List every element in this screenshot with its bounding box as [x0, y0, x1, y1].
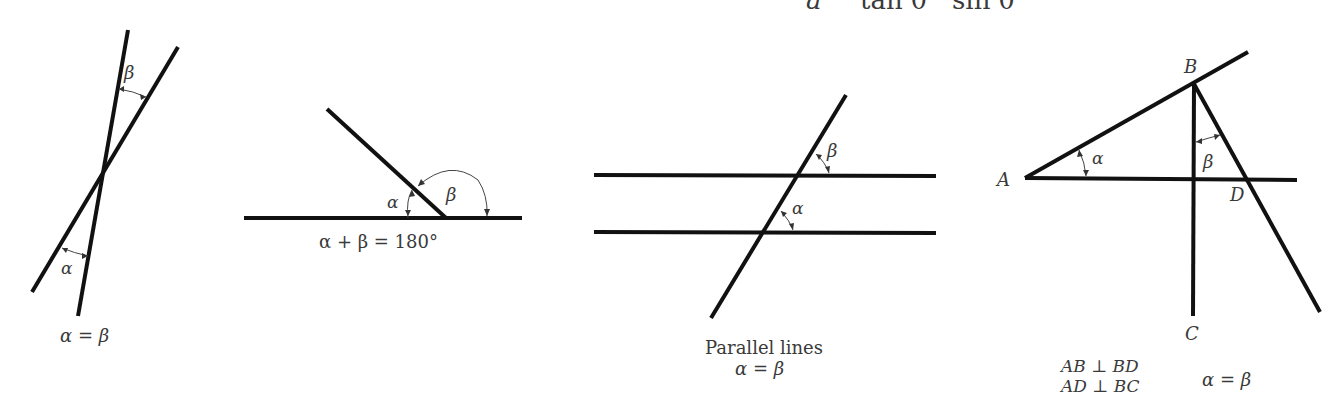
point-B: B [1183, 56, 1197, 77]
arrowhead [1083, 170, 1089, 176]
point-D: D [1229, 184, 1245, 205]
line-BC [1193, 84, 1194, 316]
arrowhead [825, 166, 830, 173]
label-alpha: α [61, 258, 73, 278]
line-AB [1025, 52, 1248, 178]
caption-equal: α = β [735, 358, 784, 379]
point-C: C [1185, 323, 1199, 344]
figure-parallel-lines: β α Parallel lines α = β [594, 95, 936, 379]
figure-intersecting-lines: β α α = β [32, 30, 178, 346]
label-beta: β [123, 62, 134, 83]
figure-supplementary-angles: α β α + β = 180° [244, 109, 522, 252]
caption-perp-2: AD ⊥ BC [1059, 376, 1140, 396]
arrowhead [405, 210, 411, 216]
formula-fragment: a tan θ sin θ [806, 0, 1014, 15]
formula-tan: tan θ [860, 0, 927, 15]
formula-a: a [806, 0, 822, 15]
geometry-figure: a tan θ sin θ β α α = β α β α + β = 180° [0, 0, 1328, 416]
figure-perpendicular-lines: A B C D α β AB ⊥ BD AD ⊥ BC α = β [995, 52, 1320, 396]
caption-perp-1: AB ⊥ BD [1059, 356, 1139, 376]
caption-title: Parallel lines [705, 337, 823, 358]
label-beta: β [445, 184, 456, 205]
transversal [711, 95, 846, 318]
arrowhead [1196, 138, 1202, 144]
arrowhead [781, 211, 787, 217]
parallel-line-top [594, 175, 936, 176]
arrowhead [484, 209, 490, 216]
label-alpha: α [387, 192, 399, 212]
line-diagonal [32, 47, 178, 292]
line-AD [1025, 178, 1297, 180]
formula-sin: sin θ [952, 0, 1014, 15]
label-alpha: α [792, 198, 804, 218]
point-A: A [995, 169, 1010, 190]
arrowhead [418, 179, 425, 186]
label-beta: β [1202, 151, 1213, 172]
label-alpha: α [1092, 148, 1104, 168]
caption-equal: α = β [1202, 369, 1251, 390]
label-beta: β [826, 140, 837, 161]
caption-equal: α = β [60, 325, 109, 346]
caption-sum: α + β = 180° [319, 231, 438, 252]
arrowhead [789, 223, 794, 230]
line-BD [1194, 84, 1320, 312]
arrowhead [1214, 134, 1220, 140]
